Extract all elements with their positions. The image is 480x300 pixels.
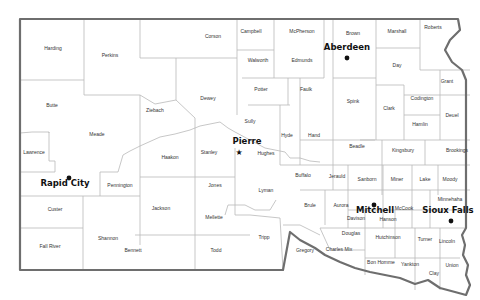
county-label: Pennington — [107, 182, 133, 188]
county-label: Jerauld — [329, 173, 346, 179]
county-label: Brule — [304, 202, 316, 208]
county-label: Roberts — [424, 24, 442, 30]
county-label: Jackson — [152, 205, 171, 211]
county-label: Stanley — [201, 149, 218, 155]
county-label: Faulk — [300, 86, 313, 92]
county-label: Bennett — [124, 247, 142, 253]
county-label: Custer — [48, 206, 63, 212]
city-label: Mitchell — [356, 205, 394, 215]
county-label: Day — [393, 62, 402, 68]
county-label: Spink — [347, 98, 360, 104]
county-label: Mellette — [205, 214, 223, 220]
county-label: Marshall — [388, 28, 407, 34]
county-label: Hyde — [281, 132, 293, 138]
county-label: Sully — [245, 118, 256, 124]
county-label: Sanborn — [358, 176, 377, 182]
county-label: Lyman — [259, 187, 274, 193]
county-label: Campbell — [240, 28, 261, 34]
county-label: Corson — [205, 33, 221, 39]
city-dot-icon — [345, 56, 350, 61]
county-label: Butte — [46, 102, 58, 108]
city-dot-icon — [449, 219, 454, 224]
county-label: Kingsbury — [392, 147, 415, 153]
county-label: Hamlin — [412, 121, 428, 127]
state-border — [20, 19, 470, 295]
county-label: Aurora — [333, 202, 348, 208]
county-label: Moody — [442, 176, 458, 182]
county-labels: HardingPerkinsCorsonCampbellMcPhersonBro… — [23, 24, 468, 276]
county-label: Miner — [391, 176, 404, 182]
county-label: Meade — [89, 131, 105, 137]
county-label: Ziebach — [146, 107, 164, 113]
county-label: Fall River — [39, 243, 60, 249]
county-label: Grant — [441, 78, 454, 84]
county-label: Shannon — [98, 235, 118, 241]
county-label: Lawrence — [23, 149, 45, 155]
county-label: Yankton — [401, 261, 419, 267]
city-label: Rapid City — [40, 178, 90, 188]
county-label: Hand — [308, 132, 320, 138]
county-label: Davison — [347, 215, 365, 221]
county-label: McPherson — [289, 28, 315, 34]
county-label: Lincoln — [439, 238, 455, 244]
county-label: McCook — [395, 205, 414, 211]
county-label: Dewey — [200, 95, 216, 101]
city-label: Pierre — [232, 136, 261, 146]
county-label: Gregory — [296, 247, 315, 253]
county-label: Codington — [411, 95, 434, 101]
county-label: Edmunds — [291, 57, 313, 63]
county-label: Walworth — [248, 57, 269, 63]
county-label: Turner — [418, 236, 433, 242]
city-label: Aberdeen — [324, 42, 370, 52]
county-label: Tripp — [258, 234, 269, 240]
county-label: Potter — [254, 86, 268, 92]
county-label: Beadle — [349, 143, 365, 149]
county-boundaries — [20, 19, 470, 290]
county-label: Charles Mix — [326, 246, 353, 252]
county-label: Buffalo — [295, 172, 311, 178]
county-label: Hutchinson — [375, 234, 400, 240]
county-label: Minnehaha — [438, 196, 463, 202]
county-label: Deuel — [445, 112, 458, 118]
county-label: Hughes — [257, 150, 275, 156]
county-label: Clark — [383, 105, 395, 111]
county-label: Perkins — [102, 52, 119, 58]
county-label: Lake — [420, 176, 431, 182]
south-dakota-county-map: HardingPerkinsCorsonCampbellMcPhersonBro… — [0, 0, 480, 300]
county-label: Brown — [346, 30, 360, 36]
county-label: Clay — [429, 270, 440, 276]
county-label: Brookings — [446, 147, 469, 153]
county-label: Haakon — [161, 154, 178, 160]
county-label: Union — [445, 262, 458, 268]
county-label: Todd — [211, 247, 222, 253]
county-label: Hanson — [379, 216, 396, 222]
city-label: Sioux Falls — [422, 205, 473, 215]
county-label: Harding — [44, 45, 62, 51]
capital-star-icon: ★ — [235, 148, 242, 157]
county-label: Douglas — [342, 230, 361, 236]
county-label: Bon Homme — [367, 259, 395, 265]
county-label: Jones — [208, 182, 222, 188]
